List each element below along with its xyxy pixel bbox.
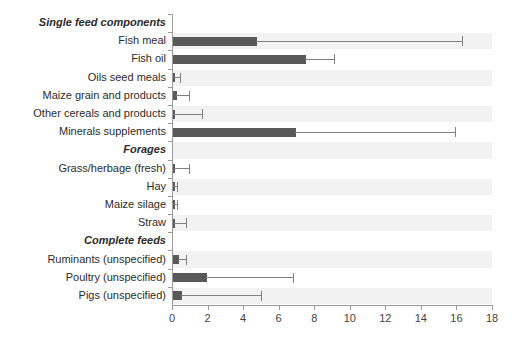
category-label: Maize silage xyxy=(4,198,172,210)
bar xyxy=(173,128,296,137)
error-bar-cap xyxy=(334,54,335,64)
row-band xyxy=(172,70,492,86)
error-bar-cap xyxy=(180,73,181,83)
category-label: Oils seed meals xyxy=(4,71,172,83)
row-band xyxy=(172,179,492,195)
error-bar-line xyxy=(178,259,186,260)
error-bar-line xyxy=(206,277,293,278)
error-bar-line xyxy=(181,295,261,296)
x-axis-tick-label: 12 xyxy=(373,312,397,324)
category-label: Hay xyxy=(4,180,172,192)
x-axis-tick xyxy=(456,306,457,310)
category-label: Ruminants (unspecified) xyxy=(4,253,172,265)
y-axis-line xyxy=(172,14,173,306)
category-group-label: Single feed components xyxy=(4,16,172,28)
category-labels: Single feed componentsFish mealFish oilO… xyxy=(0,14,172,305)
x-axis-tick-label: 6 xyxy=(267,312,291,324)
error-bar-line xyxy=(174,223,186,224)
x-axis-tick xyxy=(172,306,173,310)
category-label: Minerals supplements xyxy=(4,125,172,137)
error-bar-line xyxy=(305,59,333,60)
category-label: Other cereals and products xyxy=(4,107,172,119)
category-group-label: Forages xyxy=(4,143,172,155)
x-axis-tick xyxy=(279,306,280,310)
x-axis-tick-label: 4 xyxy=(231,312,255,324)
x-axis-tick xyxy=(350,306,351,310)
category-label: Pigs (unspecified) xyxy=(4,289,172,301)
x-axis-tick-label: 8 xyxy=(302,312,326,324)
category-label: Maize grain and products xyxy=(4,89,172,101)
x-axis-tick-label: 2 xyxy=(196,312,220,324)
error-bar-cap xyxy=(202,109,203,119)
category-label: Poultry (unspecified) xyxy=(4,271,172,283)
error-bar-cap xyxy=(293,273,294,283)
error-bar-line xyxy=(173,114,202,115)
row-band xyxy=(172,251,492,267)
error-bar-cap xyxy=(177,200,178,210)
plot-area xyxy=(172,14,492,305)
error-bar-cap xyxy=(261,291,262,301)
error-bar-cap xyxy=(462,36,463,46)
row-band xyxy=(172,106,492,122)
category-label: Straw xyxy=(4,216,172,228)
x-axis-tick-label: 16 xyxy=(444,312,468,324)
bar xyxy=(173,55,306,64)
x-axis-tick-label: 0 xyxy=(160,312,184,324)
x-axis-tick-label: 18 xyxy=(480,312,504,324)
error-bar-line xyxy=(174,168,189,169)
error-bar-cap xyxy=(189,91,190,101)
x-axis-line xyxy=(172,305,493,306)
category-label: Fish oil xyxy=(4,52,172,64)
bar xyxy=(173,273,207,282)
row-band xyxy=(172,142,492,158)
error-bar-line xyxy=(176,95,188,96)
x-axis-tick-label: 10 xyxy=(338,312,362,324)
error-bar-cap xyxy=(189,164,190,174)
error-bar-line xyxy=(295,132,455,133)
x-axis-tick xyxy=(208,306,209,310)
x-axis-tick xyxy=(243,306,244,310)
error-bar-cap xyxy=(186,255,187,265)
row-band xyxy=(172,215,492,231)
error-bar-cap xyxy=(177,182,178,192)
bar xyxy=(173,37,257,46)
x-axis-tick-label: 14 xyxy=(409,312,433,324)
x-axis-tick xyxy=(421,306,422,310)
bar-chart: Single feed componentsFish mealFish oilO… xyxy=(0,0,527,343)
x-axis-tick xyxy=(492,306,493,310)
category-group-label: Complete feeds xyxy=(4,234,172,246)
category-label: Fish meal xyxy=(4,34,172,46)
error-bar-line xyxy=(256,41,462,42)
category-label: Grass/herbage (fresh) xyxy=(4,162,172,174)
error-bar-cap xyxy=(455,127,456,137)
x-axis-tick xyxy=(385,306,386,310)
x-axis-tick xyxy=(314,306,315,310)
error-bar-cap xyxy=(186,218,187,228)
